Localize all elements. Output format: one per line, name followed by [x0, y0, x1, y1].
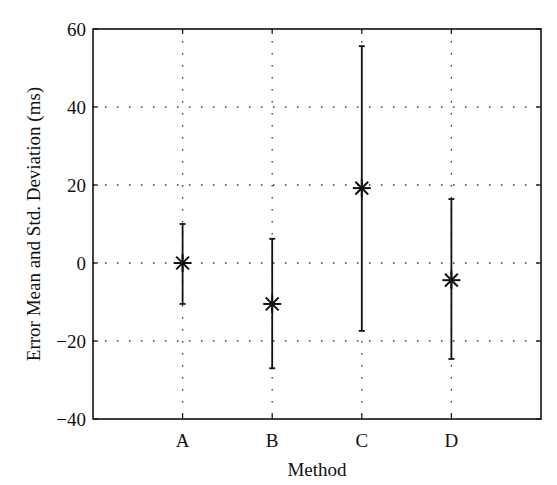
grid-lines: [93, 29, 541, 419]
x-axis-title: Method: [287, 459, 347, 480]
error-bar-a: [174, 224, 192, 304]
x-tick-label: A: [176, 430, 190, 451]
y-tick-label: 60: [67, 19, 86, 40]
x-tick-labels: ABCD: [176, 430, 459, 451]
error-bar-c: [353, 46, 371, 331]
error-bars: [174, 46, 461, 368]
y-tick-label: −40: [56, 409, 86, 430]
y-tick-labels: −40−200204060: [56, 19, 86, 430]
x-tick-label: D: [445, 430, 459, 451]
y-tick-label: 0: [77, 253, 87, 274]
error-bar-d: [442, 199, 460, 359]
error-bar-b: [263, 239, 281, 368]
plot-frame: [93, 29, 541, 419]
asterisk-marker-icon: [263, 295, 281, 313]
x-tick-label: B: [266, 430, 279, 451]
asterisk-marker-icon: [174, 254, 192, 272]
axis-ticks: [93, 29, 541, 419]
asterisk-marker-icon: [442, 271, 460, 289]
y-tick-label: 20: [67, 175, 86, 196]
asterisk-marker-icon: [353, 179, 371, 197]
y-tick-label: −20: [56, 331, 86, 352]
error-bar-chart: −40−200204060 ABCD Method Error Mean and…: [0, 0, 557, 485]
x-tick-label: C: [355, 430, 368, 451]
y-axis-title: Error Mean and Std. Deviation (ms): [23, 87, 45, 361]
y-tick-label: 40: [67, 97, 86, 118]
